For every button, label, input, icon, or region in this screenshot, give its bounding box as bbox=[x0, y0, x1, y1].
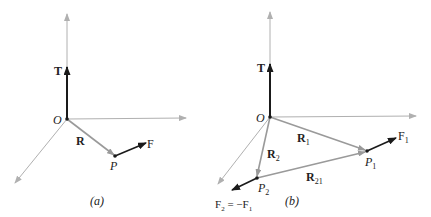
y-axis bbox=[270, 116, 416, 117]
label-t: T bbox=[257, 61, 265, 75]
label-p1: P1 bbox=[364, 155, 376, 171]
label-r: R bbox=[76, 134, 85, 148]
label-f1: F1 bbox=[398, 129, 409, 145]
origin-point bbox=[268, 115, 272, 119]
label-f2-equation: F2 = −F1 bbox=[215, 198, 253, 213]
panel-b: T O R1 R2 R21 P1 P2 F1 F2 = −F1 (b) bbox=[215, 12, 416, 213]
label-r1: R1 bbox=[297, 131, 310, 147]
label-p2: P2 bbox=[257, 181, 269, 197]
label-o: O bbox=[256, 111, 265, 125]
position-vector-r bbox=[67, 119, 114, 155]
caption-b: (b) bbox=[285, 194, 299, 208]
label-p: P bbox=[109, 159, 118, 173]
caption-a: (a) bbox=[90, 194, 104, 208]
force-vector-f2 bbox=[232, 178, 257, 190]
origin-point bbox=[65, 117, 69, 121]
point-p bbox=[113, 154, 117, 158]
label-t: T bbox=[54, 64, 62, 78]
x-axis bbox=[15, 119, 67, 183]
point-p2 bbox=[255, 176, 259, 180]
label-o: O bbox=[53, 113, 62, 127]
label-f: F bbox=[147, 137, 154, 151]
force-vector-f bbox=[115, 143, 146, 156]
force-vector-f1 bbox=[367, 138, 396, 151]
label-r21: R21 bbox=[306, 170, 323, 186]
position-vector-r1 bbox=[270, 117, 365, 150]
point-p1 bbox=[365, 149, 369, 153]
panel-a: T O R P F (a) bbox=[15, 14, 186, 208]
torque-diagram: T O R P F (a) T O R1 R2 bbox=[0, 0, 431, 217]
y-axis bbox=[67, 118, 186, 119]
label-r2: R2 bbox=[267, 147, 280, 163]
